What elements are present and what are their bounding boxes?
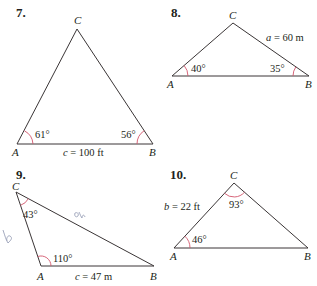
angle-label-B: 56°	[121, 129, 136, 140]
handwritten-b	[3, 230, 11, 243]
angle-arc-A	[184, 66, 188, 77]
vertex-label-C: C	[229, 9, 237, 21]
problem-10: 10. C A B 46° 93° b = 22 ft	[164, 167, 311, 262]
angle-arc-B	[137, 131, 144, 144]
vertex-label-A: A	[36, 270, 44, 282]
angle-label-A: 61°	[35, 129, 50, 140]
angle-arc-A	[24, 131, 33, 144]
side-label-c: c = 47 m	[75, 271, 112, 282]
angle-label-B: 35°	[270, 63, 285, 74]
handwritten-a	[75, 212, 85, 218]
angle-arc-C	[225, 192, 245, 197]
angle-label-A: 110°	[53, 253, 73, 264]
angle-label-C: 43°	[23, 209, 38, 220]
problem-number: 7.	[16, 5, 26, 20]
triangle	[16, 192, 154, 266]
problem-9: 9. C A B 43° 110° c = 47 m	[3, 167, 157, 282]
vertex-label-B: B	[304, 250, 311, 262]
angle-arc-C	[21, 199, 29, 206]
side-label-c: c = 100 ft	[63, 147, 104, 158]
angle-label-A: 40°	[191, 63, 206, 74]
vertex-label-A: A	[166, 78, 174, 90]
side-label-a: a = 60 m	[266, 32, 304, 43]
angle-arc-B	[293, 67, 296, 76]
vertex-label-C: C	[74, 14, 82, 26]
vertex-label-B: B	[305, 78, 312, 90]
vertex-label-B: B	[149, 146, 156, 158]
problem-number: 10.	[170, 167, 186, 182]
triangle-problems-figure: 7. C A B 61° 56° c = 100 ft 8. C A B 40°…	[0, 0, 317, 286]
vertex-label-A: A	[11, 146, 19, 158]
angle-label-C: 93°	[229, 199, 244, 210]
angle-arc-A	[185, 236, 190, 248]
vertex-label-B: B	[150, 270, 157, 282]
triangle	[17, 29, 153, 144]
problem-8: 8. C A B 40° 35° a = 60 m	[166, 5, 312, 90]
side-label-b: b = 22 ft	[164, 201, 200, 212]
problem-7: 7. C A B 61° 56° c = 100 ft	[11, 5, 156, 158]
angle-label-A: 46°	[192, 234, 207, 245]
vertex-label-C: C	[12, 180, 20, 192]
vertex-label-A: A	[169, 250, 177, 262]
vertex-label-C: C	[230, 169, 238, 181]
problem-number: 8.	[171, 5, 181, 20]
